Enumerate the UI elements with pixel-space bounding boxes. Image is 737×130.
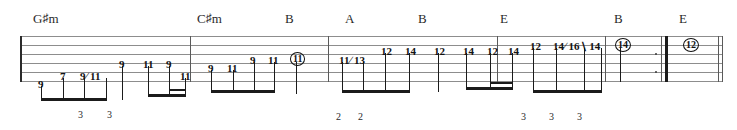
staff-line-3 xyxy=(20,54,722,55)
note-stem xyxy=(106,78,107,100)
chord-root: G xyxy=(33,11,42,26)
fret-number: 12 xyxy=(530,41,541,52)
final-barline-outer xyxy=(722,36,723,82)
fret-number: 11 xyxy=(268,55,278,66)
chord-symbol: B xyxy=(614,12,623,25)
note-stem xyxy=(620,48,621,82)
note-beam xyxy=(342,90,410,93)
chord-quality: m xyxy=(212,11,222,26)
fret-number: 12 xyxy=(381,46,392,57)
note-stem xyxy=(122,66,123,100)
tuplet-digit: 3 xyxy=(78,110,83,120)
fret-number-circled: 12 xyxy=(683,38,699,52)
note-beam xyxy=(41,98,107,101)
note-stem xyxy=(385,53,386,92)
fret-number: 11 xyxy=(227,63,237,74)
fret-number: 9 xyxy=(119,59,125,70)
fret-number: 14 xyxy=(405,46,416,57)
chord-symbol: E xyxy=(500,12,508,25)
note-stem xyxy=(274,62,275,92)
fret-number: 14 xyxy=(463,46,474,57)
note-stem xyxy=(556,48,557,92)
note-stem xyxy=(169,66,170,96)
chord-symbol: G♯m xyxy=(33,12,59,25)
note-stem xyxy=(438,53,439,92)
note-beam xyxy=(211,90,275,93)
staff-line-6 xyxy=(20,81,722,82)
staff-line-5 xyxy=(20,72,722,73)
note-beam-secondary xyxy=(490,82,513,84)
note-stem xyxy=(533,48,534,92)
fret-number: 9 xyxy=(166,59,172,70)
chord-symbol: C♯m xyxy=(197,12,222,25)
fret-number: 9 xyxy=(250,55,256,66)
chord-symbol: A xyxy=(345,12,354,25)
note-stem xyxy=(466,53,467,89)
barline-measure-3-end xyxy=(497,36,498,82)
chord-root: C xyxy=(197,11,206,26)
chord-symbol: E xyxy=(679,12,687,25)
tuplet-digit: 3 xyxy=(521,112,526,122)
repeat-dot-lower xyxy=(655,71,657,73)
chord-symbol: B xyxy=(418,12,427,25)
repeat-barline-thin xyxy=(661,36,662,82)
staff-line-1 xyxy=(20,36,722,37)
tuplet-digit: 3 xyxy=(549,112,554,122)
tuplet-digit: 3 xyxy=(577,112,582,122)
barline-measure-4-end xyxy=(605,36,606,82)
note-beam-secondary xyxy=(169,89,186,91)
fret-number: 14 xyxy=(508,46,519,57)
fret-number: 12 xyxy=(434,46,445,57)
note-stem xyxy=(601,48,602,92)
repeat-dot-upper xyxy=(655,53,657,55)
barline-measure-2-end xyxy=(328,36,329,82)
note-stem xyxy=(342,62,343,92)
barline-start xyxy=(20,36,22,82)
fret-number: 7 xyxy=(60,71,66,82)
tuplet-digit: 3 xyxy=(107,110,112,120)
chord-symbol: B xyxy=(285,12,294,25)
fret-number: 9 xyxy=(208,63,214,74)
fret-number: 9∕ 11 xyxy=(80,71,100,82)
chord-quality: m xyxy=(48,11,58,26)
staff-line-4 xyxy=(20,63,722,64)
fret-number: 14∕ 16∖ 14 xyxy=(553,41,600,52)
note-stem xyxy=(296,62,297,94)
note-stem xyxy=(254,62,255,92)
tablature-sheet: G♯mC♯mBABEBE 979∕ 119119119119111111∕ 13… xyxy=(0,0,737,130)
note-beam xyxy=(148,94,186,97)
fret-number: 11 xyxy=(180,71,190,82)
tuplet-digit: 2 xyxy=(358,112,363,122)
fret-number-circled: 14 xyxy=(615,38,631,52)
fret-number: 11 xyxy=(143,59,153,70)
note-stem xyxy=(363,62,364,92)
repeat-barline-thick xyxy=(665,36,668,82)
note-beam xyxy=(533,90,602,93)
fret-number: 11∕ 13 xyxy=(339,55,365,66)
note-stem xyxy=(409,53,410,92)
fret-number: 9 xyxy=(38,79,44,90)
fret-number: 12 xyxy=(487,46,498,57)
tuplet-digit: 2 xyxy=(336,112,341,122)
final-barline-thin xyxy=(718,36,719,82)
note-beam xyxy=(466,87,513,90)
note-stem xyxy=(148,66,149,96)
note-stem xyxy=(584,48,585,92)
